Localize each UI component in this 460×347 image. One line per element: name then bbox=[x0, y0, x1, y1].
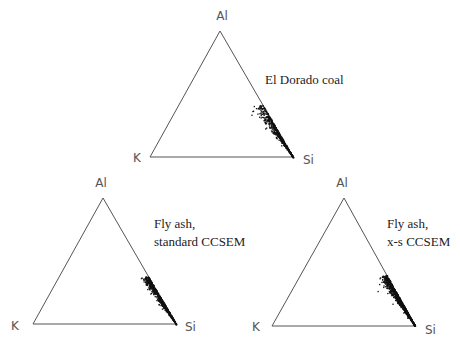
vertex-label-al: Al bbox=[216, 9, 228, 23]
scatter-points bbox=[378, 275, 417, 327]
panel-caption-line-1: Fly ash, bbox=[387, 216, 428, 231]
vertex-label-al: Al bbox=[95, 176, 107, 190]
panel-fly-ash-standard: Al K Si Fly ash, standard CCSEM bbox=[11, 176, 246, 334]
panel-caption-line-2: x-s CCSEM bbox=[387, 234, 451, 249]
ternary-triangle bbox=[150, 31, 293, 157]
scatter-points bbox=[251, 105, 294, 158]
vertex-label-k: K bbox=[252, 320, 261, 334]
vertex-label-si: Si bbox=[303, 153, 314, 167]
panel-caption-line-1: Fly ash, bbox=[154, 216, 195, 231]
vertex-label-si: Si bbox=[425, 323, 436, 337]
vertex-label-al: Al bbox=[336, 176, 348, 190]
vertex-label-k: K bbox=[133, 151, 142, 165]
vertex-label-si: Si bbox=[185, 320, 196, 334]
panel-fly-ash-xs: Al K Si Fly ash, x-s CCSEM bbox=[252, 176, 451, 337]
vertex-label-k: K bbox=[11, 319, 20, 333]
ternary-figure: Al K Si El Dorado coal Al K Si Fly ash, … bbox=[0, 0, 460, 347]
panel-el-dorado-coal: Al K Si El Dorado coal bbox=[133, 9, 344, 167]
panel-caption-line-2: standard CCSEM bbox=[154, 234, 246, 249]
panel-caption-line-1: El Dorado coal bbox=[265, 72, 344, 87]
scatter-points bbox=[141, 276, 177, 325]
